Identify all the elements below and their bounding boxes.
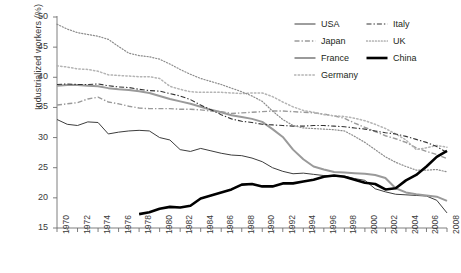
y-tick-label: 45 [26,41,48,51]
legend-swatch-italy-icon [366,19,388,29]
x-tick-label: 1998 [348,215,358,234]
y-tick-label: 50 [26,11,48,21]
legend-label: USA [321,19,340,29]
x-tick-label: 1976 [123,215,133,234]
y-tick-label: 20 [26,192,48,202]
legend-label: France [321,53,349,63]
x-tick-label: 1980 [164,215,174,234]
y-tick-label: 40 [26,71,48,81]
legend-swatch-usa-icon [294,19,316,29]
legend-swatch-france-icon [294,53,316,63]
x-tick-label: 2008 [451,215,461,234]
x-tick-label: 1974 [102,215,112,234]
x-tick-label: 1972 [82,215,92,234]
x-tick-label: 2002 [389,215,399,234]
x-tick-label: 1990 [266,215,276,234]
legend-swatch-uk-icon [366,36,388,46]
legend-item-germany[interactable]: Germany [294,66,366,83]
x-tick-label: 2006 [430,215,440,234]
legend-label: Japan [321,36,346,46]
legend-item-france[interactable]: France [294,49,366,66]
x-tick-label: 1988 [246,215,256,234]
x-tick-label: 1982 [184,215,194,234]
y-tick-label: 35 [26,101,48,111]
y-tick-label: 25 [26,162,48,172]
y-tick-label: 15 [26,222,48,232]
x-tick-label: 1984 [205,215,215,234]
legend-item-china[interactable]: China [366,49,454,66]
x-tick-label: 1970 [61,215,71,234]
x-tick-label: 2000 [369,215,379,234]
x-tick-label: 1978 [143,215,153,234]
x-tick-label: 1992 [287,215,297,234]
legend-item-uk[interactable]: UK [366,32,454,49]
x-tick-label: 1994 [307,215,317,234]
legend-label: Germany [321,70,358,80]
chart-legend: USAItalyJapanUKFranceChinaGermany [294,15,454,83]
legend-swatch-japan-icon [294,36,316,46]
series-line-china [139,151,447,214]
x-tick-label: 1996 [328,215,338,234]
y-tick-label: 30 [26,132,48,142]
legend-swatch-germany-icon [294,70,316,80]
legend-item-japan[interactable]: Japan [294,32,366,49]
legend-item-italy[interactable]: Italy [366,15,454,32]
legend-label: Italy [393,19,410,29]
legend-item-usa[interactable]: USA [294,15,366,32]
series-line-japan [57,97,447,158]
legend-label: China [393,53,417,63]
series-line-usa [57,119,447,212]
legend-label: UK [393,36,406,46]
legend-swatch-china-icon [366,53,388,63]
x-tick-label: 2004 [410,215,420,234]
x-tick-label: 1986 [225,215,235,234]
